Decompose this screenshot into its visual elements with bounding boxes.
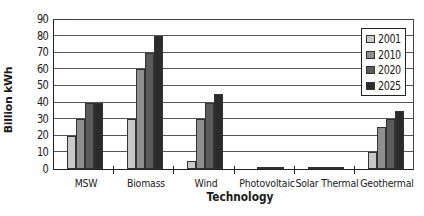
x-tick: [354, 166, 355, 174]
bar-biomass-2001: [127, 119, 136, 169]
bar-photovoltaic-2010: [257, 167, 266, 169]
bar-wind-2010: [196, 119, 205, 169]
legend-swatch: [366, 66, 375, 74]
legend-swatch: [366, 35, 375, 43]
legend-swatch: [366, 82, 375, 90]
x-tick-label: MSW: [52, 177, 120, 190]
bar-wind-2025: [214, 94, 223, 169]
bar-biomass-2025: [154, 36, 163, 169]
bar-geothermal-2025: [395, 111, 404, 169]
x-tick-label: Solar Thermal: [293, 177, 361, 190]
gridline: [54, 52, 413, 53]
bar-photovoltaic-2020: [266, 167, 275, 169]
gridline: [54, 151, 413, 152]
bar-msw-2001: [67, 136, 76, 169]
gridline: [54, 35, 413, 36]
x-tick: [234, 166, 235, 174]
y-tick-label: 10: [32, 146, 48, 158]
plot-area: [53, 19, 414, 170]
legend-label: 2001: [378, 32, 401, 46]
y-tick-label: 50: [32, 79, 48, 91]
x-tick-label: Wind: [172, 177, 240, 190]
bar-geothermal-2020: [386, 119, 395, 169]
y-tick-label: 60: [32, 63, 48, 75]
legend-label: 2025: [378, 79, 401, 93]
x-tick: [173, 166, 174, 174]
y-tick-label: 90: [32, 13, 48, 25]
bar-msw-2010: [76, 119, 85, 169]
x-tick: [113, 166, 114, 174]
legend-item-2020: 2020: [366, 63, 407, 77]
y-tick-label: 40: [32, 96, 48, 108]
gridline: [54, 118, 413, 119]
y-tick-label: 80: [32, 30, 48, 42]
y-tick-label: 20: [32, 129, 48, 141]
y-tick-label: 0: [32, 163, 48, 175]
legend-item-2001: 2001: [366, 32, 407, 46]
legend-label: 2020: [378, 63, 401, 77]
bar-geothermal-2001: [368, 152, 377, 169]
bar-wind-2020: [205, 103, 214, 169]
bar-solar-thermal-2001: [308, 167, 317, 169]
bar-solar-thermal-2025: [335, 167, 344, 169]
x-tick-label: Photovoltaic: [233, 177, 301, 190]
bar-msw-2025: [94, 103, 103, 169]
bar-wind-2001: [187, 161, 196, 169]
gridline: [54, 85, 413, 86]
legend: 2001201020202025: [361, 28, 406, 96]
x-axis-title: Technology: [205, 190, 275, 204]
bar-biomass-2020: [145, 53, 154, 169]
bar-solar-thermal-2010: [317, 167, 326, 169]
bar-photovoltaic-2025: [275, 167, 284, 169]
y-tick-label: 70: [32, 46, 48, 58]
bar-biomass-2010: [136, 69, 145, 169]
x-tick-label: Geothermal: [353, 177, 421, 190]
legend-swatch: [366, 51, 375, 59]
x-tick: [294, 166, 295, 174]
y-tick-label: 30: [32, 113, 48, 125]
bar-geothermal-2010: [377, 127, 386, 169]
gridline: [54, 102, 413, 103]
y-axis-title: Billion kWh: [2, 94, 14, 106]
bar-msw-2020: [85, 103, 94, 169]
legend-item-2025: 2025: [366, 79, 407, 93]
gridline: [54, 68, 413, 69]
legend-item-2010: 2010: [366, 48, 407, 62]
legend-label: 2010: [378, 48, 401, 62]
x-tick-label: Biomass: [112, 177, 180, 190]
bar-solar-thermal-2020: [326, 167, 335, 169]
gridline: [54, 135, 413, 136]
